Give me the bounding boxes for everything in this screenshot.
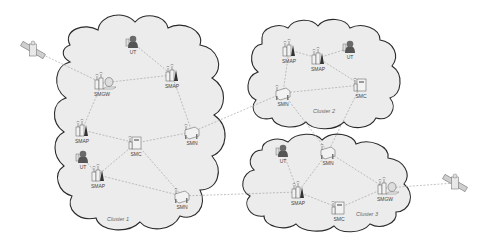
cluster-1-cloud (54, 15, 225, 230)
node-label-c2_smc: SMC (355, 93, 367, 99)
node-label-c1_smc: SMC (130, 151, 142, 157)
node-label-c2_smap1: SMAP (282, 58, 297, 64)
satellite-icon (442, 174, 467, 192)
node-label-c1_ut2: UT (80, 164, 87, 170)
node-label-c1_smap1: SMAP (165, 83, 180, 89)
cluster-3-label: Cluster 3 (356, 211, 379, 217)
node-label-c3_smgw: SMGW (377, 196, 393, 202)
node-label-c1_smgw: SMGW (94, 91, 110, 97)
node-label-c3_smn: SMN (322, 160, 334, 166)
cluster-2-label: Cluster 2 (313, 108, 335, 114)
node-label-c3_ut: UT (280, 158, 287, 164)
node-label-c1_smap2: SMAP (75, 138, 90, 144)
node-label-c3_smap: SMAP (291, 200, 306, 206)
node-label-c2_smn: SMN (277, 101, 289, 107)
cluster-1-label: Cluster 1 (107, 216, 129, 222)
node-label-c3_smc: SMC (333, 216, 345, 222)
node-label-c1_ut1: UT (130, 49, 137, 55)
node-label-c2_ut: UT (347, 54, 354, 60)
node-label-c1_smap3: SMAP (91, 183, 106, 189)
cluster-clouds (54, 15, 410, 232)
node-label-c1_smn2: SMN (176, 204, 188, 210)
network-diagram: UTSMGWSMAPSMAPSMCSMNUTSMAPSMNSMAPSMAPUTS… (0, 0, 490, 242)
node-label-c2_smap2: SMAP (311, 66, 326, 72)
satellite-icon (20, 41, 45, 59)
node-label-c1_smn1: SMN (186, 140, 198, 146)
